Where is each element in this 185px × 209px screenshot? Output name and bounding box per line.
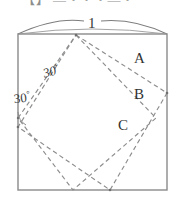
dimension-arc-right-segment — [101, 21, 167, 34]
dimension-arc-left-segment — [18, 20, 84, 34]
dimension-arc-inner — [18, 29, 167, 34]
dimension-arc-icon — [18, 20, 167, 34]
vertex-bottom — [109, 189, 112, 192]
dashed-square-outer — [18, 35, 167, 190]
figure-canvas — [0, 0, 185, 209]
geometry-figure: 【】 ―・・・―・ 1 30° 30° A B C — [0, 0, 185, 209]
dashed-square-inner — [18, 35, 156, 190]
vertex-top — [75, 34, 78, 37]
vertex-right — [166, 92, 169, 95]
outer-square — [18, 34, 167, 190]
vertex-left — [17, 126, 20, 129]
